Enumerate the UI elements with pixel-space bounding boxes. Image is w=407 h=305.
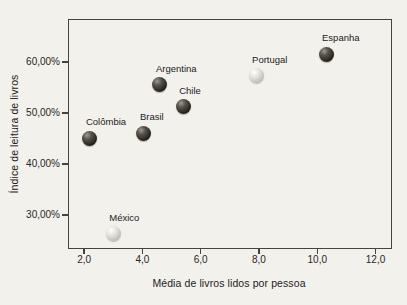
data-point-ball: [319, 47, 334, 62]
x-axis-title: Média de livros lidos por pessoa: [152, 277, 305, 289]
data-point-label: Portugal: [252, 55, 287, 65]
x-axis-tick-label: 2,0: [64, 254, 104, 265]
data-point-label: México: [109, 213, 139, 223]
data-point-ball: [106, 226, 121, 241]
y-axis-tick-label: 50,00%: [5, 107, 60, 119]
data-point-label: Brasil: [140, 112, 164, 122]
x-axis-tick-label: 10,0: [297, 254, 337, 265]
x-axis-tick-label: 6,0: [181, 254, 221, 265]
x-axis-tick-label: 8,0: [239, 254, 279, 265]
data-point-ball: [136, 126, 151, 141]
y-axis-tick-mark: [62, 61, 68, 63]
data-point-label: Chile: [179, 86, 201, 96]
y-axis-title: Índice de leitura de livros: [8, 75, 20, 194]
data-point-ball: [152, 77, 167, 92]
data-point-label: Espanha: [322, 33, 360, 43]
y-axis-tick-label: 30,00%: [5, 209, 60, 221]
y-axis-tick-label: 60,00%: [5, 56, 60, 68]
x-axis-tick-label: 4,0: [122, 254, 162, 265]
x-axis-tick-label: 12,0: [356, 254, 396, 265]
plot-area: 30,00%40,00%50,00%60,00%2,04,06,08,010,0…: [68, 19, 392, 249]
data-point-ball: [82, 131, 97, 146]
y-axis-tick-mark: [62, 214, 68, 216]
y-axis-tick-label: 40,00%: [5, 158, 60, 170]
data-point-label: Argentina: [156, 64, 197, 74]
y-axis-tick-mark: [62, 163, 68, 165]
data-point-label: Colômbia: [86, 117, 126, 127]
scatter-chart-figure: Índice de leitura de livros 30,00%40,00%…: [0, 0, 407, 305]
data-point-ball: [249, 68, 264, 83]
y-axis-tick-mark: [62, 112, 68, 114]
data-point-ball: [176, 99, 191, 114]
